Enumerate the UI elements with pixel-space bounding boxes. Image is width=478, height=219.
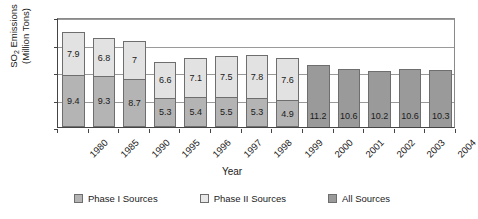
bar-column[interactable]: 10.3 — [429, 70, 452, 127]
legend-label: All Sources — [342, 193, 390, 204]
bar-column[interactable]: 6.89.3 — [93, 38, 116, 127]
bar-value-label: 7.9 — [67, 49, 80, 59]
x-axis-tick — [149, 129, 150, 133]
legend-swatch-phase2 — [200, 194, 209, 203]
x-axis-tick-label: 2001 — [363, 137, 386, 160]
bar-segment[interactable]: 9.4 — [62, 75, 85, 127]
bar-segment[interactable]: 7.9 — [62, 32, 85, 75]
bar-segment[interactable]: 6.8 — [93, 38, 116, 75]
bar-value-label: 10.2 — [371, 111, 389, 121]
bar-segment[interactable]: 5.4 — [184, 97, 207, 127]
bar-column[interactable]: 7.55.5 — [215, 56, 238, 128]
bar-column[interactable]: 10.2 — [368, 71, 391, 127]
bar-segment[interactable]: 9.3 — [93, 76, 116, 127]
x-axis-tick — [302, 129, 303, 133]
x-axis-tick-label: 1997 — [241, 137, 264, 160]
bar-value-label: 10.6 — [401, 111, 419, 121]
x-axis-tick-label: 2003 — [424, 137, 447, 160]
x-axis-tick-label: 1998 — [271, 137, 294, 160]
bar-value-label: 8.7 — [128, 98, 141, 108]
bar-value-label: 5.3 — [251, 107, 264, 117]
bar-value-label: 10.3 — [432, 111, 450, 121]
x-axis-tick-label: 2004 — [455, 137, 478, 160]
bar-value-label: 10.6 — [340, 111, 358, 121]
x-axis-tick — [363, 129, 364, 133]
legend-item[interactable]: Phase II Sources — [200, 193, 286, 204]
plot-area: 05101520 7.99.46.89.378.76.65.37.15.47.5… — [57, 18, 455, 128]
bar-value-label: 4.9 — [281, 109, 294, 119]
x-axis-tick — [118, 129, 119, 133]
bar-column[interactable]: 7.64.9 — [276, 58, 299, 127]
x-axis-tick-label: 1995 — [180, 137, 203, 160]
bar-value-label: 11.2 — [310, 111, 327, 121]
legend-swatch-all — [328, 194, 337, 203]
x-axis-tick-label: 2002 — [394, 137, 417, 160]
bar-column[interactable]: 6.65.3 — [154, 62, 177, 127]
bar-value-label: 9.3 — [98, 96, 111, 106]
y-axis-title-subscript: 2 — [13, 50, 20, 54]
x-axis-tick — [455, 129, 456, 133]
x-axis-tick — [424, 129, 425, 133]
x-axis-tick-labels: 1980198519901995199619971998199920002001… — [57, 129, 455, 163]
bar-value-label: 5.5 — [220, 107, 233, 117]
x-axis-tick — [210, 129, 211, 133]
x-axis-tick-label: 1985 — [118, 137, 141, 160]
bar-value-label: 7 — [132, 55, 137, 65]
x-axis-tick — [88, 129, 89, 133]
bar-value-label: 7.1 — [190, 73, 203, 83]
x-axis-tick-label: 2000 — [333, 137, 356, 160]
bar-value-label: 6.8 — [98, 53, 111, 63]
bar-segment[interactable]: 5.5 — [215, 97, 238, 127]
x-axis-title: Year — [0, 166, 464, 177]
x-axis-tick — [179, 129, 180, 133]
bar-value-label: 9.4 — [67, 96, 80, 106]
legend-item[interactable]: Phase I Sources — [74, 193, 158, 204]
bar-segment[interactable]: 6.6 — [154, 62, 177, 98]
bar-segment[interactable]: 10.6 — [399, 69, 422, 127]
bar-column[interactable]: 7.15.4 — [184, 58, 207, 127]
bar-segment[interactable]: 7.1 — [184, 58, 207, 97]
y-axis-title-line2: (Million Tons) — [20, 0, 31, 96]
bar-segment[interactable]: 10.2 — [368, 71, 391, 127]
bar-segment[interactable]: 5.3 — [154, 98, 177, 127]
bar-segment[interactable]: 5.3 — [246, 98, 269, 127]
x-axis-tick-label: 1990 — [149, 137, 172, 160]
bar-segment[interactable]: 10.6 — [338, 69, 361, 127]
bar-series-container: 7.99.46.89.378.76.65.37.15.47.55.57.85.3… — [58, 19, 454, 127]
bar-column[interactable]: 7.85.3 — [246, 55, 269, 127]
legend-item[interactable]: All Sources — [328, 193, 390, 204]
x-axis-tick — [57, 129, 58, 133]
x-axis-tick-label: 1999 — [302, 137, 325, 160]
bar-segment[interactable]: 7.6 — [276, 58, 299, 100]
bar-segment[interactable]: 4.9 — [276, 100, 299, 127]
bar-column[interactable]: 78.7 — [123, 41, 146, 127]
legend-label: Phase II Sources — [214, 193, 286, 204]
bar-value-label: 7.5 — [220, 72, 233, 82]
bar-segment[interactable]: 7 — [123, 41, 146, 80]
bar-segment[interactable]: 8.7 — [123, 79, 146, 127]
x-axis-tick — [333, 129, 334, 133]
bar-segment[interactable]: 7.5 — [215, 56, 238, 97]
bar-value-label: 6.6 — [159, 75, 172, 85]
x-axis-tick — [394, 129, 395, 133]
bar-segment[interactable]: 7.8 — [246, 55, 269, 98]
bar-value-label: 5.4 — [190, 107, 203, 117]
bar-column[interactable]: 10.6 — [399, 69, 422, 127]
chart-legend: Phase I SourcesPhase II SourcesAll Sourc… — [0, 193, 464, 204]
x-axis-tick-label: 1980 — [88, 137, 111, 160]
bar-segment[interactable]: 10.3 — [429, 70, 452, 127]
y-axis-title-line1: SO2 Emissions — [8, 4, 19, 68]
x-axis-tick — [271, 129, 272, 133]
x-axis-tick-label: 1996 — [210, 137, 233, 160]
y-axis-title: SO2 Emissions (Million Tons) — [8, 0, 24, 96]
legend-swatch-phase1 — [74, 194, 83, 203]
bar-column[interactable]: 7.99.4 — [62, 32, 85, 127]
bar-column[interactable]: 11.2 — [307, 65, 330, 127]
bar-value-label: 7.8 — [251, 72, 264, 82]
bar-segment[interactable]: 11.2 — [307, 65, 330, 127]
bar-column[interactable]: 10.6 — [338, 69, 361, 127]
bar-value-label: 7.6 — [281, 75, 294, 85]
legend-label: Phase I Sources — [88, 193, 158, 204]
bar-value-label: 5.3 — [159, 107, 172, 117]
